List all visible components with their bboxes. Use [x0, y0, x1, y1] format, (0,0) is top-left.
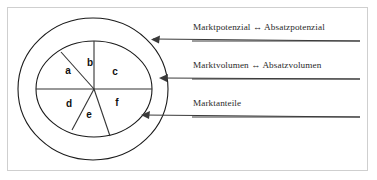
pie-segment-label-b: b	[87, 58, 93, 68]
callout-leader-lines	[143, 39, 360, 117]
callout-label-marktvolumen: Marktvolumen ↔ Absatzvolumen	[193, 61, 321, 70]
figure-root: Marktpotenzial ↔ Absatzpotenzial Marktvo…	[0, 0, 377, 180]
callout-label-marktpotenzial: Marktpotenzial ↔ Absatzpotenzial	[193, 23, 325, 32]
callout-label-marktanteile: Marktanteile	[193, 99, 241, 108]
pie-segment-label-c: c	[112, 67, 118, 77]
pie-segment-label-e: e	[86, 110, 92, 120]
pie-segment-label-f: f	[115, 98, 118, 108]
arrowhead-marktpotenzial	[151, 36, 160, 44]
arrowhead-marktvolumen	[159, 74, 168, 82]
pie-divider-lower-right	[94, 89, 110, 136]
pie-segment-label-a: a	[65, 66, 71, 76]
pie-segment-label-d: d	[66, 99, 72, 109]
